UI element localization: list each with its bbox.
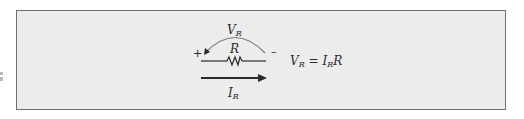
ohms-law-equation: VR = IRR [290, 55, 342, 69]
voltage-label-main: V [227, 23, 236, 37]
resistor-diagram [0, 0, 524, 119]
eq-equals: = [309, 54, 319, 68]
eq-r: R [333, 54, 342, 68]
plus-sign: + [193, 48, 202, 59]
resistor-zigzag-icon [227, 57, 242, 65]
current-label-sub: R [233, 92, 239, 101]
eq-v: V [290, 54, 299, 68]
current-arrowhead-icon [258, 74, 267, 82]
current-label: IR [228, 87, 239, 101]
eq-v-sub: R [299, 60, 305, 69]
resistor-label: R [230, 43, 239, 55]
voltage-label-sub: R [236, 29, 242, 38]
voltage-label: VR [227, 24, 242, 38]
minus-sign: – [271, 46, 277, 57]
